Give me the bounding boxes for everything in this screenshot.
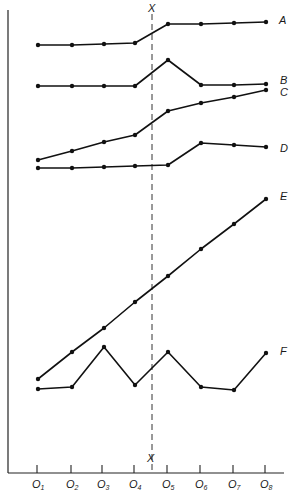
series-label-f: F — [280, 345, 288, 357]
data-point — [264, 351, 268, 355]
data-point — [36, 158, 40, 162]
data-point — [199, 22, 203, 26]
x-axis-ticks — [37, 465, 265, 473]
data-point — [264, 82, 268, 86]
data-point — [232, 21, 236, 25]
x-tick-label: O1 — [32, 478, 45, 491]
data-point — [199, 141, 203, 145]
x-axis-tick-labels: O1O2O3O4O5O6O7O8 — [32, 478, 273, 491]
data-point — [102, 42, 106, 46]
data-point — [102, 140, 106, 144]
x-tick-label: O6 — [195, 478, 208, 491]
intervention-label-top: X — [147, 2, 156, 14]
data-point — [264, 88, 268, 92]
data-point — [70, 43, 74, 47]
series-line — [38, 60, 266, 86]
data-point — [232, 95, 236, 99]
x-tick-label: O5 — [162, 478, 175, 491]
data-point — [70, 84, 74, 88]
data-point — [232, 222, 236, 226]
data-point — [166, 22, 170, 26]
data-point — [102, 84, 106, 88]
data-point — [264, 145, 268, 149]
data-point — [36, 166, 40, 170]
series-label-a: A — [278, 14, 286, 26]
data-point — [232, 143, 236, 147]
data-point — [133, 164, 137, 168]
data-point — [166, 274, 170, 278]
data-point — [133, 133, 137, 137]
data-point — [133, 300, 137, 304]
data-point — [133, 41, 137, 45]
data-point — [70, 385, 74, 389]
data-point — [70, 166, 74, 170]
data-point — [133, 84, 137, 88]
data-point — [166, 109, 170, 113]
data-point — [70, 350, 74, 354]
data-point — [232, 83, 236, 87]
series-b — [36, 58, 268, 88]
x-tick-label: O4 — [129, 478, 142, 491]
data-point — [166, 350, 170, 354]
data-point — [199, 247, 203, 251]
series-label-d: D — [280, 142, 288, 154]
data-point — [232, 388, 236, 392]
data-point — [264, 197, 268, 201]
data-point — [102, 165, 106, 169]
data-point — [36, 377, 40, 381]
x-tick-label: O2 — [66, 478, 79, 491]
x-tick-label: O3 — [97, 478, 110, 491]
data-point — [264, 20, 268, 24]
data-point — [199, 101, 203, 105]
data-point — [70, 149, 74, 153]
series-label-c: C — [280, 86, 288, 98]
data-point — [166, 58, 170, 62]
intervention-label-bottom: X — [146, 452, 155, 464]
x-tick-label: O8 — [260, 478, 273, 491]
data-point — [36, 387, 40, 391]
series-label-e: E — [280, 190, 288, 202]
x-tick-label: O7 — [228, 478, 242, 491]
series-label-b: B — [280, 74, 287, 86]
time-series-design-chart: O1O2O3O4O5O6O7O8 X X A B C D E F — [0, 0, 294, 494]
data-point — [36, 43, 40, 47]
data-point — [199, 385, 203, 389]
data-point — [166, 163, 170, 167]
data-point — [102, 326, 106, 330]
data-point — [199, 83, 203, 87]
data-point — [36, 84, 40, 88]
series-a — [36, 20, 268, 47]
data-point — [133, 383, 137, 387]
data-point — [102, 345, 106, 349]
